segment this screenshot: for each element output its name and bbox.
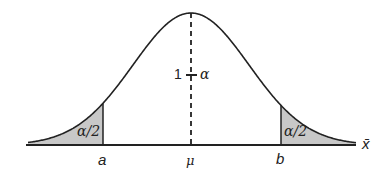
tick-label-a: a: [98, 152, 106, 167]
minus-sign: [186, 74, 197, 76]
distribution-plot: [0, 0, 384, 174]
normal-distribution-diagram: 1 α α/2 α/2 a μ b x̄: [0, 0, 384, 174]
center-area-one: 1: [174, 66, 182, 82]
tick-label-b: b: [276, 151, 284, 166]
tick-label-mu: μ: [186, 154, 194, 167]
center-area-alpha: α: [200, 67, 209, 81]
x-axis-label: x̄: [362, 136, 370, 151]
center-area-label: 1: [174, 67, 182, 81]
left-tail-label: α/2: [77, 124, 100, 138]
right-tail-label: α/2: [284, 124, 307, 138]
